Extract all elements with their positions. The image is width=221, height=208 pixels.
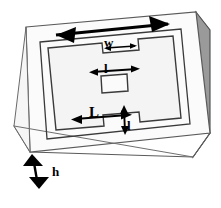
dimension-label-L: L (89, 105, 99, 120)
substrate-3d-drawing (0, 0, 221, 208)
dimension-label-w: w (104, 36, 113, 49)
centre-square-patch (101, 74, 128, 93)
figure-canvas: w l L l h (0, 0, 221, 208)
dimension-label-h: h (52, 165, 59, 178)
arrow-h (23, 154, 49, 189)
dimension-label-l-depth: l (127, 119, 131, 132)
dimension-label-l-centre: l (104, 62, 108, 75)
